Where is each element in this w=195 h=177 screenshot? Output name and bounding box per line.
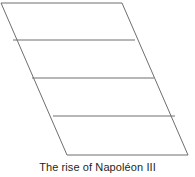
figure-caption: The rise of Napoléon III bbox=[0, 160, 195, 174]
figure-container: The rise of Napoléon III bbox=[0, 0, 195, 177]
parallelogram-diagram bbox=[0, 0, 195, 177]
